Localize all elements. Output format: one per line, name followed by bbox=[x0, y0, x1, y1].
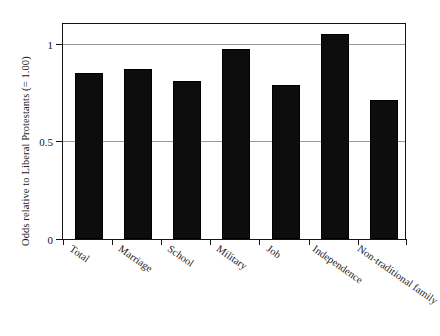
y-tick-label-0: 0 bbox=[48, 234, 54, 246]
y-tick-label-1: 1 bbox=[48, 39, 54, 51]
bar-military bbox=[222, 49, 250, 239]
bar-series bbox=[63, 24, 405, 239]
x-label-job: Job bbox=[265, 243, 283, 260]
bar-job bbox=[272, 85, 300, 239]
y-tick-label-0-5: 0.5 bbox=[39, 136, 53, 148]
y-tick-0-5: 0.5 bbox=[56, 141, 63, 142]
y-tick-0: 0 bbox=[56, 239, 63, 240]
bar-school bbox=[173, 81, 201, 239]
bar-total bbox=[75, 73, 103, 239]
x-tick-7 bbox=[406, 239, 407, 245]
x-label-military: Military bbox=[215, 243, 250, 272]
x-axis-category-labels: Total Marriage School Military Job Indep… bbox=[62, 243, 406, 336]
x-label-total: Total bbox=[68, 243, 92, 264]
plot-area: 1 0.5 0 bbox=[62, 23, 406, 240]
y-tick-1: 1 bbox=[56, 44, 63, 45]
bar-independence bbox=[321, 34, 349, 239]
x-label-non-traditional-family: Non-traditional family bbox=[356, 243, 440, 306]
y-axis-title: Odds relative to Liberal Protestants (= … bbox=[20, 56, 31, 246]
y-axis-title-container: Odds relative to Liberal Protestants (= … bbox=[0, 0, 30, 260]
bar-non-traditional-family bbox=[370, 100, 398, 239]
bar-marriage bbox=[124, 69, 152, 239]
x-label-marriage: Marriage bbox=[117, 243, 155, 274]
x-label-school: School bbox=[166, 243, 196, 269]
